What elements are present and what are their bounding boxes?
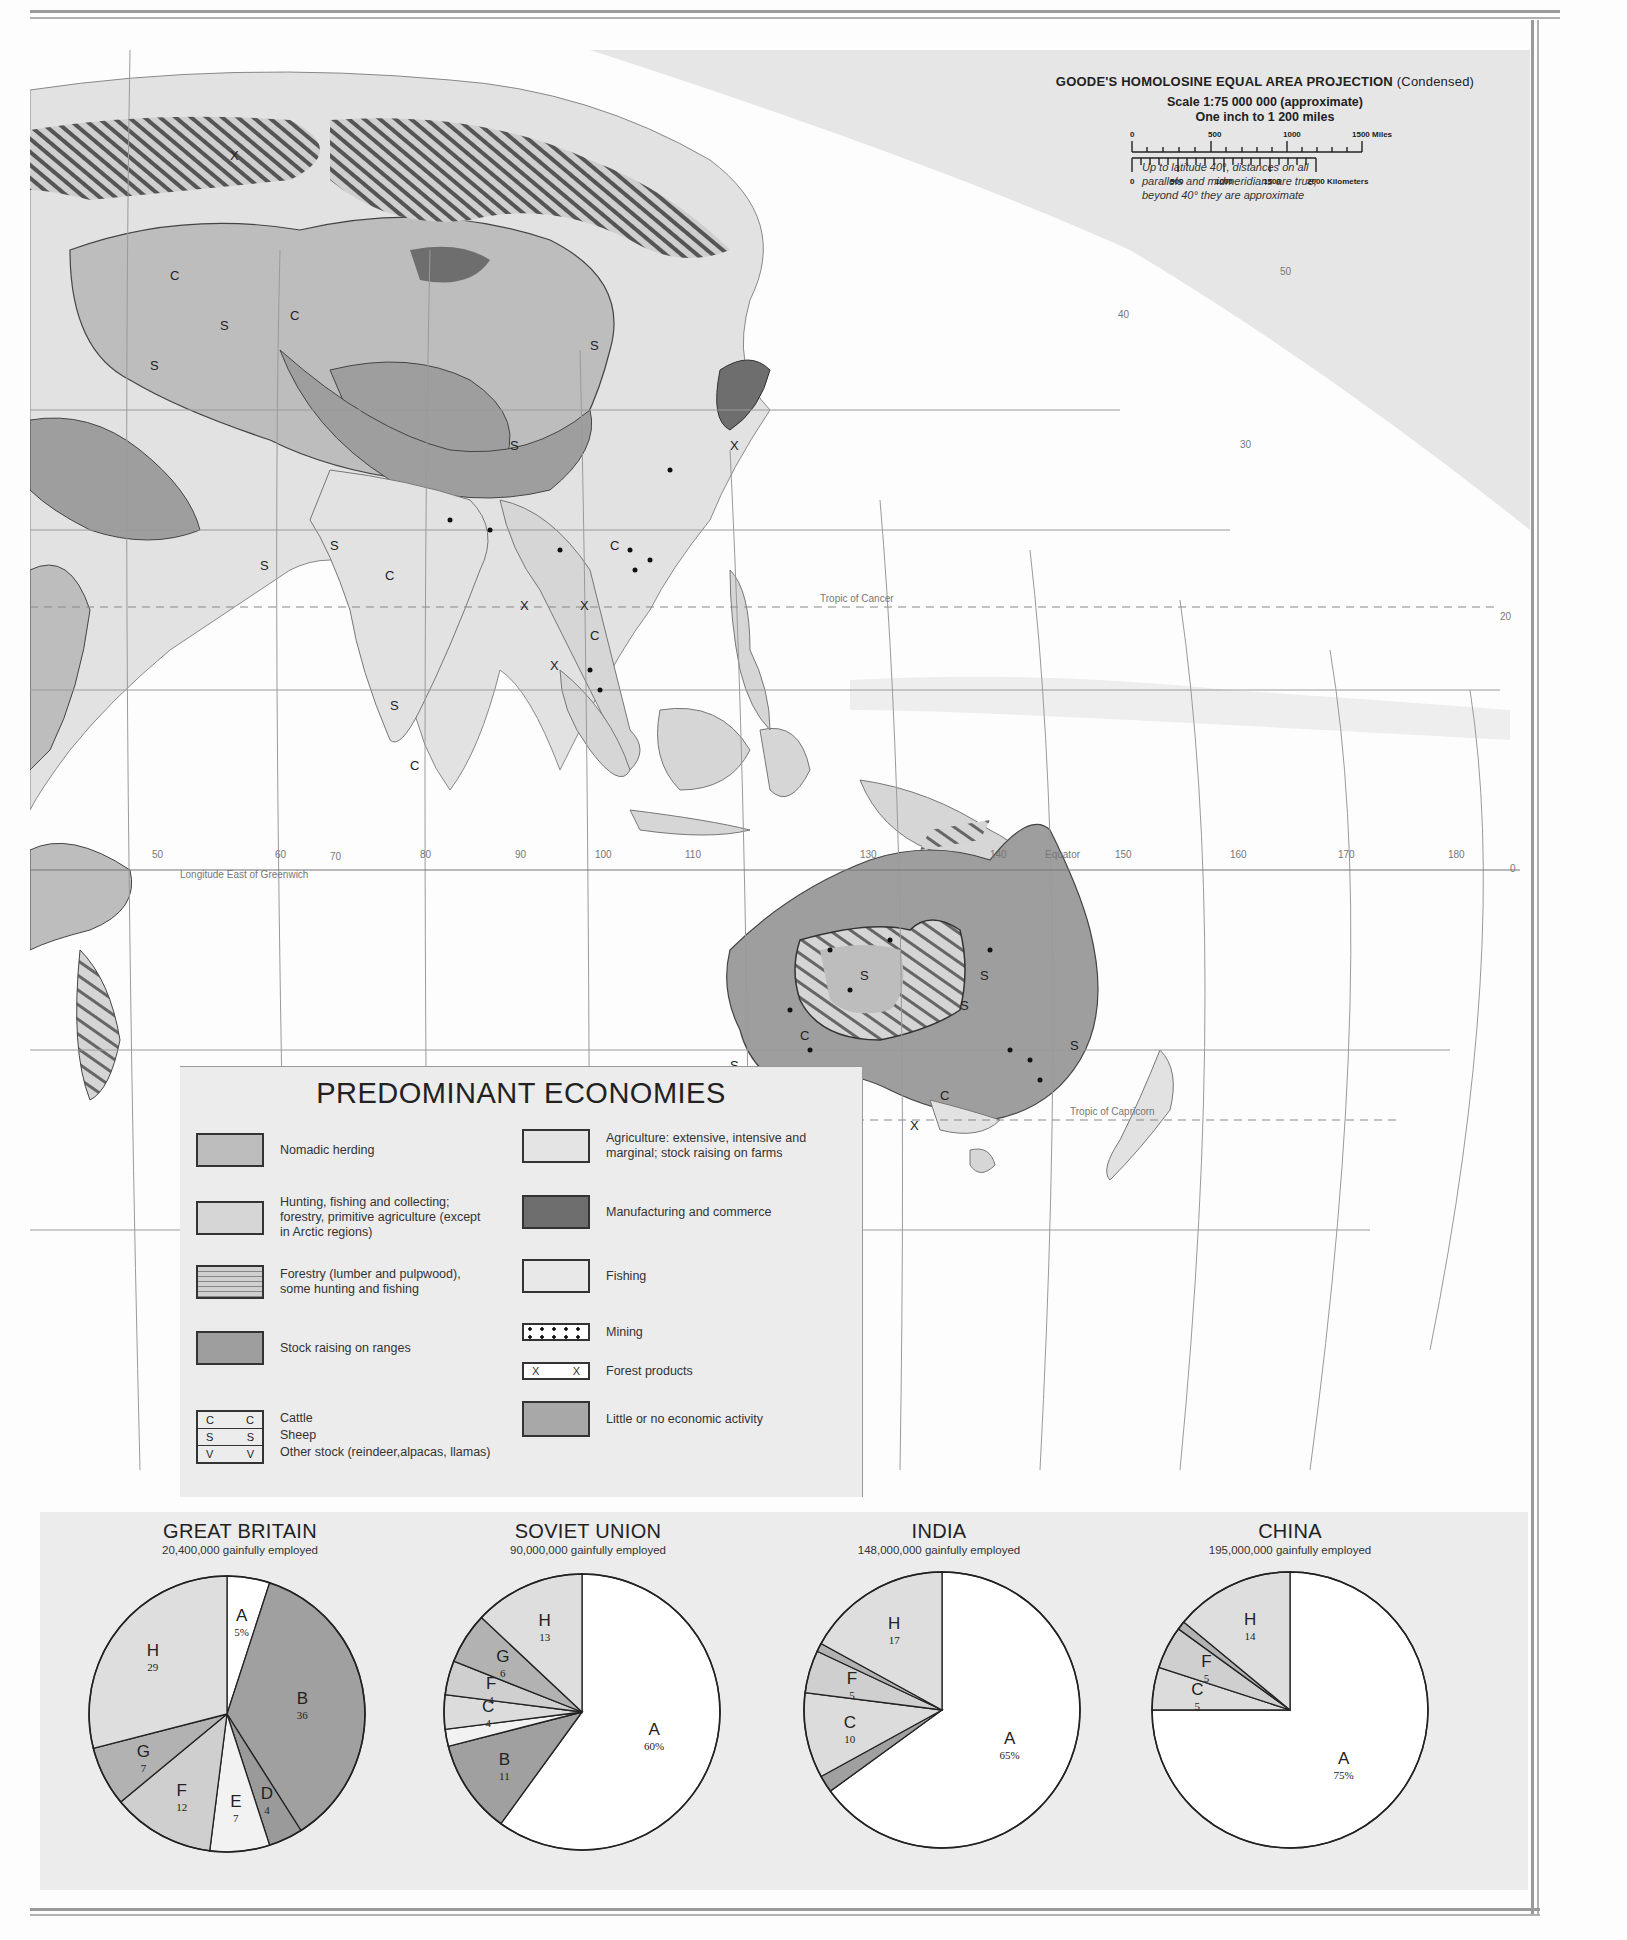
legend-item-fishing: Fishing	[522, 1259, 852, 1293]
svg-text:A: A	[1004, 1729, 1016, 1748]
svg-text:S: S	[150, 358, 159, 373]
svg-text:130: 130	[860, 849, 877, 860]
legend-swatch	[196, 1201, 264, 1235]
legend-item-manufacturing: Manufacturing and commerce	[522, 1195, 852, 1229]
pie-chart-great-britain: A5%B36D4E7F12G7H29	[85, 1572, 369, 1856]
page-frame-top-inner	[30, 17, 1560, 19]
mining-dots-icon	[522, 1323, 590, 1341]
svg-text:F: F	[177, 1781, 187, 1800]
svg-text:Tropic of Capricorn: Tropic of Capricorn	[1070, 1106, 1155, 1117]
legend-item-forest-products: XX Forest products	[522, 1362, 852, 1380]
page-frame-bottom	[30, 1908, 1540, 1911]
svg-text:C: C	[590, 628, 599, 643]
svg-text:140: 140	[990, 849, 1007, 860]
svg-text:40: 40	[1118, 309, 1130, 320]
svg-text:20: 20	[1500, 611, 1512, 622]
legend-item-agriculture: Agriculture: extensive, intensive and ma…	[522, 1129, 852, 1163]
svg-text:5: 5	[1204, 1672, 1210, 1684]
svg-text:13: 13	[539, 1631, 551, 1643]
svg-text:2000 Kilometers: 2000 Kilometers	[1307, 177, 1369, 186]
svg-text:100: 100	[595, 849, 612, 860]
svg-text:C: C	[290, 308, 299, 323]
svg-text:A: A	[1338, 1749, 1350, 1768]
svg-text:500: 500	[1208, 130, 1222, 139]
svg-text:5: 5	[1195, 1700, 1201, 1712]
svg-text:F: F	[847, 1669, 857, 1688]
svg-text:5: 5	[849, 1689, 855, 1701]
svg-text:11: 11	[499, 1770, 510, 1782]
scale-bar: 0 500 1000 1500 Miles 0 500 1000 1500 20…	[1130, 128, 1460, 188]
pie-chart-india: A65%C10F5H17	[800, 1568, 1084, 1858]
svg-text:60%: 60%	[644, 1740, 664, 1752]
pie-china-header: CHINA 195,000,000 gainfully employed	[1145, 1520, 1435, 1556]
svg-text:A: A	[649, 1720, 661, 1739]
svg-text:80: 80	[420, 849, 432, 860]
svg-text:X: X	[730, 438, 739, 453]
legend-swatch	[196, 1331, 264, 1365]
svg-text:1000: 1000	[1283, 130, 1301, 139]
svg-text:H: H	[539, 1611, 551, 1630]
svg-text:G: G	[496, 1647, 509, 1666]
page-frame-bottom-inner	[30, 1914, 1540, 1916]
page-frame-right-inner	[1537, 20, 1539, 1915]
page-frame-right	[1531, 20, 1534, 1915]
svg-text:75%: 75%	[1334, 1769, 1354, 1781]
svg-text:S: S	[330, 538, 339, 553]
svg-text:0: 0	[1510, 863, 1516, 874]
svg-text:Equator: Equator	[1045, 849, 1081, 860]
svg-text:60: 60	[275, 849, 287, 860]
svg-text:S: S	[1070, 1038, 1079, 1053]
projection-scale: Scale 1:75 000 000 (approximate)	[1030, 95, 1500, 109]
svg-text:S: S	[590, 338, 599, 353]
svg-text:5%: 5%	[234, 1626, 249, 1638]
svg-text:S: S	[220, 318, 229, 333]
pie-india-header: INDIA 148,000,000 gainfully employed	[794, 1520, 1084, 1556]
svg-text:D: D	[261, 1784, 273, 1803]
svg-text:C: C	[800, 1028, 809, 1043]
svg-text:7: 7	[233, 1812, 239, 1824]
svg-text:X: X	[580, 598, 589, 613]
page-frame-top	[30, 10, 1560, 13]
svg-text:Longitude East of Greenwich: Longitude East of Greenwich	[180, 869, 308, 880]
svg-text:0: 0	[1130, 130, 1135, 139]
svg-text:65%: 65%	[1000, 1749, 1020, 1761]
svg-text:C: C	[170, 268, 179, 283]
svg-text:X: X	[230, 148, 239, 163]
svg-text:S: S	[980, 968, 989, 983]
legend-swatch	[522, 1401, 590, 1437]
svg-text:S: S	[510, 438, 519, 453]
svg-text:X: X	[910, 1118, 919, 1133]
projection-inch: One inch to 1 200 miles	[1030, 110, 1500, 124]
legend-item-mining: Mining	[522, 1323, 852, 1341]
projection-name: GOODE'S HOMOLOSINE EQUAL AREA PROJECTION…	[1030, 74, 1500, 89]
svg-text:1500 Miles: 1500 Miles	[1352, 130, 1393, 139]
svg-text:14: 14	[1245, 1630, 1257, 1642]
forest-x-icon: XX	[522, 1362, 590, 1380]
svg-text:1500: 1500	[1263, 177, 1281, 186]
svg-text:C: C	[610, 538, 619, 553]
svg-text:6: 6	[500, 1667, 506, 1679]
pie-chart-soviet-union: A60%B11C4F4G6H13	[440, 1570, 724, 1860]
svg-text:160: 160	[1230, 849, 1247, 860]
svg-text:4: 4	[485, 1717, 491, 1729]
svg-text:Tropic of Cancer: Tropic of Cancer	[820, 593, 894, 604]
svg-text:H: H	[147, 1641, 159, 1660]
svg-text:S: S	[260, 558, 269, 573]
legend-item-forestry: Forestry (lumber and pulpwood), some hun…	[196, 1265, 496, 1299]
svg-text:170: 170	[1338, 849, 1355, 860]
svg-text:H: H	[888, 1614, 900, 1633]
svg-text:S: S	[960, 998, 969, 1013]
svg-text:C: C	[940, 1088, 949, 1103]
svg-text:10: 10	[844, 1733, 856, 1745]
svg-text:29: 29	[147, 1661, 159, 1673]
legend-item-little-activity: Little or no economic activity	[522, 1401, 852, 1437]
svg-text:180: 180	[1448, 849, 1465, 860]
legend-panel: PREDOMINANT ECONOMIES Nomadic herding Hu…	[180, 1066, 863, 1497]
pie-chart-china: A75%C5F5H14	[1148, 1568, 1432, 1858]
legend-swatch	[196, 1265, 264, 1299]
legend-swatch	[196, 1133, 264, 1167]
svg-text:90: 90	[515, 849, 527, 860]
svg-text:70: 70	[330, 851, 342, 862]
stock-symbol-boxes: CC SS VV	[196, 1410, 264, 1464]
svg-text:4: 4	[264, 1804, 270, 1816]
